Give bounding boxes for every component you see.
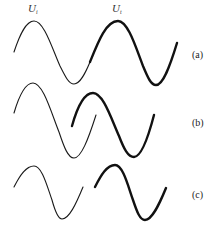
panel-b-waves — [14, 83, 154, 158]
panel-a-transmitted-wave — [90, 21, 177, 85]
panel-a-incident-wave — [14, 21, 90, 84]
transmitted-wave-label: Ut — [112, 3, 122, 18]
panel-a-waves — [14, 21, 177, 85]
panel-c-incident-wave — [14, 166, 83, 219]
panel-c-transmitted-wave — [95, 165, 166, 220]
panel-b-label: (b) — [192, 118, 204, 128]
panel-c-waves — [14, 165, 166, 220]
panel-c-label: (c) — [192, 190, 203, 200]
waves-canvas — [0, 0, 211, 234]
panel-a-label: (a) — [192, 50, 203, 60]
incident-wave-label: Ui — [28, 3, 38, 18]
panel-b-incident-wave — [14, 83, 96, 158]
wave-figure: Ui Ut (a) (b) (c) — [0, 0, 211, 234]
